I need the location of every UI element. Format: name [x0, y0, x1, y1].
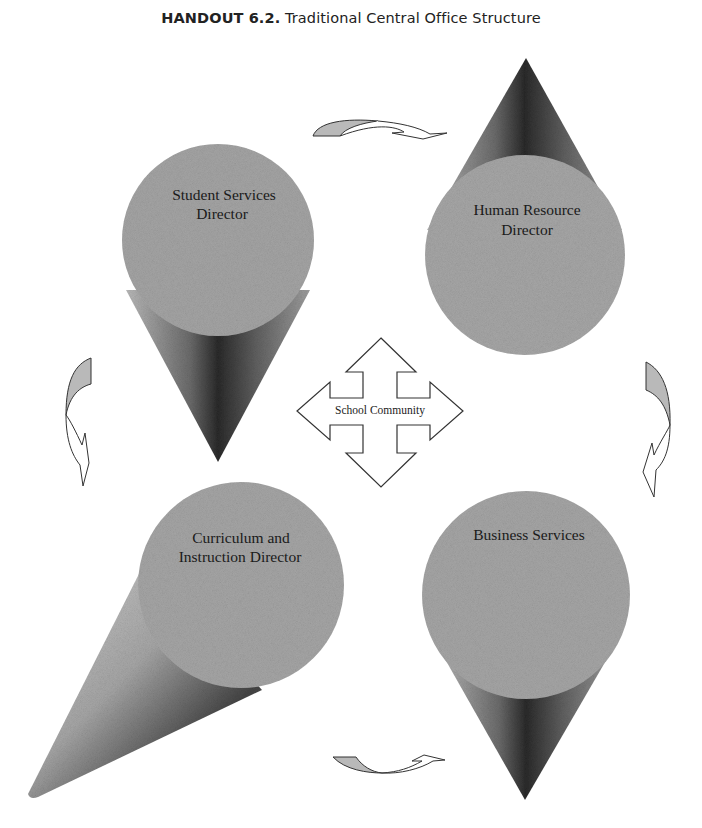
node-label-line1: Curriculum and	[192, 529, 290, 546]
arrow-head-icon	[643, 425, 670, 497]
node-label-line1: Human Resource	[473, 201, 580, 218]
arrow-head-icon	[382, 755, 445, 773]
node-label-line1: Business Services	[473, 526, 585, 543]
cycle-arrow-right	[643, 362, 670, 497]
arrow-head-icon	[66, 415, 89, 486]
disc-shape	[122, 144, 314, 336]
node-student-services: Student Services Director	[122, 144, 314, 462]
arrow-tail-shaded	[66, 358, 91, 415]
disc-shape	[422, 491, 630, 699]
arrow-tail-shaded	[646, 362, 670, 425]
center-four-way-arrow: School Community	[297, 338, 463, 487]
arrow-tail-shaded	[333, 757, 382, 773]
node-business-services: Business Services	[422, 491, 630, 800]
cycle-arrow-top	[313, 120, 447, 139]
center-label: School Community	[335, 404, 425, 417]
node-curriculum-instruction: Curriculum and Instruction Director	[28, 482, 344, 798]
node-label-line2: Instruction Director	[179, 548, 303, 565]
node-label-line2: Director	[501, 221, 553, 238]
disc-shape	[425, 155, 625, 355]
cycle-arrow-left	[66, 358, 91, 486]
disc-shape	[138, 482, 344, 688]
cycle-arrow-bottom	[333, 755, 445, 773]
org-diagram: Student Services Director Human Resource…	[0, 0, 702, 828]
node-human-resource: Human Resource Director	[425, 58, 625, 355]
node-label-line1: Student Services	[172, 186, 276, 203]
node-label-line2: Director	[196, 205, 248, 222]
